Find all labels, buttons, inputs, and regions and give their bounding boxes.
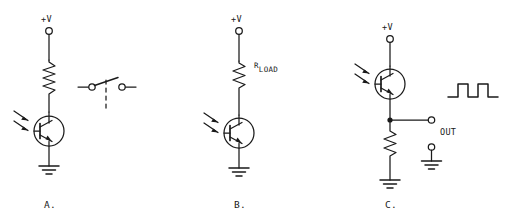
relay-coil-a [43, 60, 55, 112]
panel-label-b: B. [234, 200, 246, 210]
output-terminal-c [428, 117, 434, 123]
square-wave-symbol-c [448, 84, 498, 97]
schematic-sheet: +V +V +V RLOAD OUT A. B. C. [0, 0, 505, 220]
load-resistor-label-sub: LOAD [259, 65, 278, 74]
panel-label-c: C. [385, 200, 397, 210]
switch-contact-left-a [89, 84, 95, 90]
panel-label-a: A. [44, 200, 56, 210]
supply-label-b: +V [231, 15, 242, 24]
supply-label-a: +V [41, 15, 52, 24]
load-resistor-b [233, 61, 245, 115]
emitter-resistor-c [384, 120, 396, 180]
output-label-c: OUT [440, 128, 456, 137]
ground-return-terminal-c [428, 144, 434, 150]
supply-terminal-b [236, 28, 243, 35]
supply-terminal-c [387, 36, 394, 43]
load-resistor-label-b: RLOAD [254, 62, 278, 74]
supply-label-c: +V [382, 23, 393, 32]
circuit-drawing [0, 0, 505, 220]
switch-contact-right-a [119, 84, 125, 90]
supply-terminal-a [46, 28, 53, 35]
